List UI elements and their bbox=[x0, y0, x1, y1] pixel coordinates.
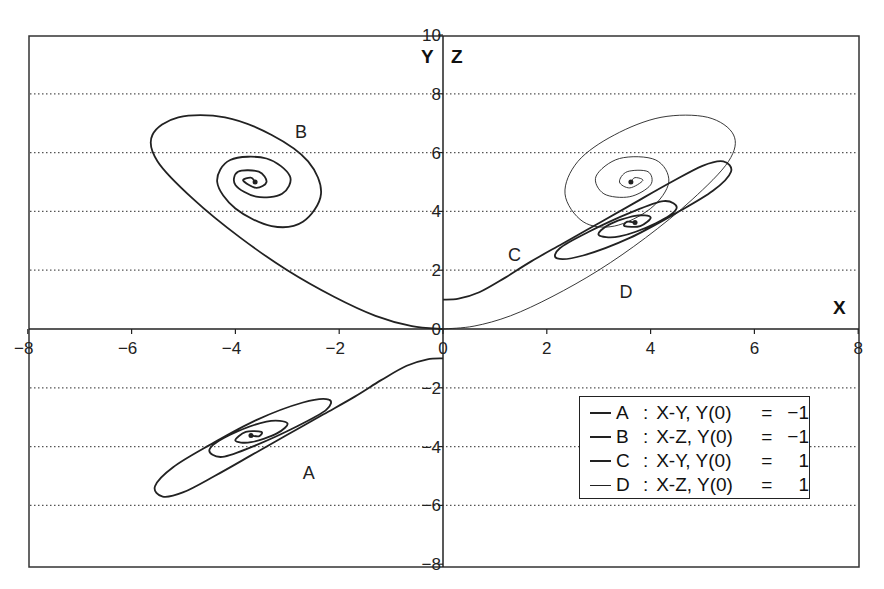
y-tick-label: 2 bbox=[432, 261, 441, 280]
y-tick-label: 10 bbox=[422, 26, 441, 45]
legend-val: −1 bbox=[784, 426, 809, 448]
legend-line-c bbox=[590, 460, 611, 462]
legend-colon: : bbox=[635, 426, 656, 448]
legend-item-c: C : X-Y, Y(0) = 1 bbox=[590, 449, 809, 473]
y-tick-label: −8 bbox=[422, 555, 441, 574]
legend-desc: X-Z, Y(0) bbox=[656, 426, 761, 448]
x-tick-label: 2 bbox=[542, 339, 551, 358]
x-axis-title: X bbox=[833, 297, 846, 318]
x-tick-label: −4 bbox=[222, 339, 241, 358]
legend-line-b bbox=[590, 436, 611, 438]
legend-desc: X-Z, Y(0) bbox=[656, 474, 761, 496]
x-tick-label: 0 bbox=[438, 339, 447, 358]
legend-key: D bbox=[616, 474, 635, 496]
legend-desc: X-Y, Y(0) bbox=[656, 450, 761, 472]
legend-key: B bbox=[616, 426, 635, 448]
curve-label-b: B bbox=[295, 122, 307, 142]
curve-d bbox=[443, 115, 735, 329]
legend-val: 1 bbox=[784, 474, 809, 496]
legend-eq: = bbox=[761, 474, 784, 496]
legend: A : X-Y, Y(0) = −1 B : X-Z, Y(0) = −1 C … bbox=[579, 396, 810, 499]
x-tick-label: 4 bbox=[646, 339, 655, 358]
legend-eq: = bbox=[761, 402, 784, 424]
legend-val: −1 bbox=[784, 402, 809, 424]
spiral-center-c bbox=[633, 220, 638, 225]
legend-line-a bbox=[590, 412, 611, 414]
legend-colon: : bbox=[635, 474, 656, 496]
y-axis-title: Y bbox=[421, 46, 434, 67]
legend-item-a: A : X-Y, Y(0) = −1 bbox=[590, 401, 809, 425]
legend-item-b: B : X-Z, Y(0) = −1 bbox=[590, 425, 809, 449]
z-axis-title: Z bbox=[451, 46, 463, 67]
x-tick-label: −6 bbox=[118, 339, 137, 358]
legend-val: 1 bbox=[784, 450, 809, 472]
legend-colon: : bbox=[635, 402, 656, 424]
curve-a bbox=[155, 358, 443, 496]
y-tick-label: −6 bbox=[422, 496, 441, 515]
y-tick-label: 6 bbox=[432, 144, 441, 163]
phase-plot: −8−6−4−202468−8−6−4−20246810 ABCD Y Z X bbox=[0, 0, 884, 589]
y-tick-label: 8 bbox=[432, 85, 441, 104]
legend-eq: = bbox=[761, 426, 784, 448]
spiral-center-b bbox=[253, 180, 258, 185]
curve-label-d: D bbox=[619, 282, 632, 302]
y-tick-label: −4 bbox=[422, 438, 441, 457]
spiral-center-a bbox=[248, 433, 253, 438]
legend-item-d: D : X-Z, Y(0) = 1 bbox=[590, 473, 809, 497]
x-tick-label: 6 bbox=[750, 339, 759, 358]
legend-key: C bbox=[616, 450, 635, 472]
legend-eq: = bbox=[761, 450, 784, 472]
y-tick-label: 4 bbox=[432, 202, 441, 221]
curve-label-a: A bbox=[303, 463, 315, 483]
curve-c bbox=[443, 161, 731, 299]
spiral-center-d bbox=[628, 180, 633, 185]
curve-label-c: C bbox=[508, 245, 521, 265]
curve-b bbox=[151, 115, 443, 329]
legend-desc: X-Y, Y(0) bbox=[656, 402, 761, 424]
legend-key: A bbox=[616, 402, 635, 424]
legend-line-d bbox=[590, 485, 611, 486]
y-tick-label: −2 bbox=[422, 379, 441, 398]
x-tick-label: −2 bbox=[326, 339, 345, 358]
x-tick-label: −8 bbox=[14, 339, 33, 358]
legend-colon: : bbox=[635, 450, 656, 472]
x-tick-label: 8 bbox=[853, 339, 862, 358]
